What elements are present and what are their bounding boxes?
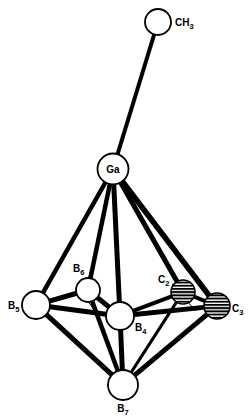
bond-ga-ch3 <box>117 33 155 157</box>
atom-label-text: CH <box>175 17 189 28</box>
atom-label-ch3: CH3 <box>175 17 194 31</box>
atom-label-subscript: 3 <box>189 22 193 31</box>
atom-c2 <box>171 280 195 304</box>
atom-label-text: B <box>117 403 124 414</box>
atom-label-subscript: 7 <box>125 408 129 417</box>
bond-ga-b4 <box>114 182 120 304</box>
bond-ga-c2 <box>120 181 178 284</box>
atom-b5 <box>22 291 50 319</box>
atom-label-b7: B7 <box>117 403 128 417</box>
bond-b5-b6 <box>48 293 79 302</box>
bond-ga-b6 <box>90 182 110 280</box>
bond-b5-b7 <box>45 313 114 376</box>
atom-label-b4: B4 <box>135 322 147 336</box>
atom-c3 <box>204 293 230 319</box>
bond-c3-b7 <box>133 313 209 377</box>
atom-label-c3: C3 <box>232 303 243 317</box>
atom-label-layer: CH3GaB5B6B4C2C3B7 <box>8 17 243 417</box>
atom-label-text: Ga <box>106 164 120 175</box>
atom-b4 <box>106 302 134 330</box>
atom-label-subscript: 3 <box>239 308 243 317</box>
atom-label-ga: Ga <box>106 164 120 175</box>
atom-label-subscript: 2 <box>165 279 169 288</box>
atom-b7 <box>108 370 138 400</box>
atom-label-c2: C2 <box>158 274 169 288</box>
atom-label-text: B <box>73 263 80 274</box>
structure-canvas: CH3GaB5B6B4C2C3B7 <box>0 0 250 420</box>
atom-label-text: C <box>158 274 165 285</box>
atom-label-text: B <box>8 300 15 311</box>
atom-label-subscript: 4 <box>142 327 147 336</box>
molecular-structure-figure: CH3GaB5B6B4C2C3B7 <box>0 0 250 420</box>
atom-label-text: B <box>135 322 142 333</box>
atom-layer <box>22 9 230 400</box>
atom-label-b5: B5 <box>8 300 19 314</box>
atom-label-subscript: 6 <box>80 268 84 277</box>
atom-label-text: C <box>232 303 239 314</box>
atom-b6 <box>76 278 100 302</box>
atom-label-subscript: 5 <box>15 305 19 314</box>
bond-b5-b4 <box>48 307 108 315</box>
atom-ch3 <box>145 9 171 35</box>
bond-b4-b7 <box>121 328 123 372</box>
atom-label-b6: B6 <box>73 263 84 277</box>
